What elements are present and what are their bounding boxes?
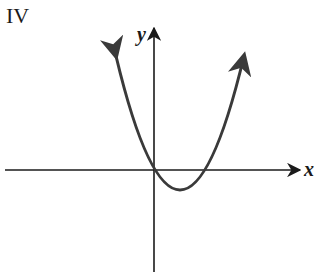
- x-axis-label: x: [303, 158, 314, 180]
- graph: y x: [0, 0, 314, 272]
- y-axis-label: y: [135, 23, 146, 46]
